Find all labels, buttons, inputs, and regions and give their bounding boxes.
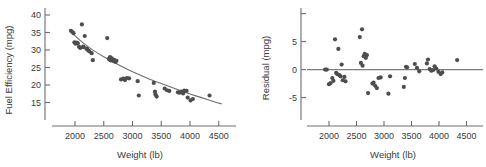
data-point: [426, 57, 430, 61]
data-point: [137, 93, 141, 97]
data-point: [167, 89, 171, 93]
y-tick-marks-right: [301, 14, 306, 98]
x-tick-label: 4500: [456, 131, 476, 141]
x-tick-marks-right: [329, 121, 467, 126]
data-points-left: [69, 22, 212, 102]
data-point: [360, 64, 364, 68]
chart-panel-residual: -505 Residual (mpg) 20002500300035004000…: [243, 0, 486, 167]
x-tick-marks-left: [75, 121, 219, 126]
x-tick-labels-left: 200025003000350040004500: [65, 131, 229, 141]
y-axis-group-left: 152025303540 Fuel Efficiency (mpg): [3, 8, 50, 120]
data-point: [83, 34, 87, 38]
data-point: [155, 94, 159, 98]
fit-curve-left: [69, 30, 221, 104]
data-point: [455, 58, 459, 62]
data-point: [366, 91, 370, 95]
data-point: [386, 92, 390, 96]
x-tick-label: 2500: [346, 131, 366, 141]
data-point: [105, 36, 109, 40]
y-tick-label: 5: [292, 37, 297, 47]
data-point: [336, 47, 340, 51]
y-tick-marks-left: [45, 15, 50, 103]
data-point: [114, 59, 118, 63]
data-point: [207, 93, 211, 97]
y-tick-label: 20: [31, 80, 41, 90]
y-tick-label: 40: [31, 10, 41, 20]
x-tick-label: 3500: [401, 131, 421, 141]
scatter-plot-fuel-efficiency: 152025303540 Fuel Efficiency (mpg) 20002…: [0, 0, 243, 167]
x-axis-title-left: Weight (lb): [117, 149, 163, 160]
data-point: [184, 89, 188, 93]
x-tick-label: 4500: [209, 131, 229, 141]
data-point: [403, 76, 407, 80]
data-point: [91, 58, 95, 62]
y-tick-label: 15: [31, 98, 41, 108]
chart-panel-fuel-efficiency: 152025303540 Fuel Efficiency (mpg) 20002…: [0, 0, 243, 167]
y-axis-title-left: Fuel Efficiency (mpg): [3, 25, 14, 114]
data-point: [80, 22, 84, 26]
data-point: [375, 86, 379, 90]
data-point: [405, 65, 409, 69]
data-point: [191, 97, 195, 101]
data-point: [90, 51, 94, 55]
x-axis-title-right: Weight (lb): [370, 149, 416, 160]
x-tick-labels-right: 200025003000350040004500: [319, 131, 477, 141]
data-points-right: [323, 27, 459, 96]
y-tick-label: 35: [31, 28, 41, 38]
y-tick-label: 30: [31, 45, 41, 55]
data-point: [343, 79, 347, 83]
data-point: [325, 68, 329, 72]
data-point: [388, 74, 392, 78]
data-point: [379, 75, 383, 79]
scatter-plot-residual: -505 Residual (mpg) 20002500300035004000…: [243, 0, 486, 167]
y-tick-labels-right: -505: [289, 37, 297, 103]
data-point: [331, 79, 335, 83]
data-point: [425, 61, 429, 65]
x-tick-label: 2000: [319, 131, 339, 141]
data-point: [333, 37, 337, 41]
figure-container: 152025303540 Fuel Efficiency (mpg) 20002…: [0, 0, 486, 167]
y-tick-label: 0: [292, 65, 297, 75]
data-point: [358, 35, 362, 39]
data-point: [417, 69, 421, 73]
data-point: [152, 81, 156, 85]
y-tick-label: 25: [31, 63, 41, 73]
data-point: [360, 27, 364, 31]
x-tick-label: 3000: [122, 131, 142, 141]
data-point: [342, 75, 346, 79]
x-tick-label: 3000: [374, 131, 394, 141]
data-point: [340, 62, 344, 66]
x-axis-group-left: 200025003000350040004500 Weight (lb): [52, 121, 236, 160]
y-tick-label: -5: [289, 93, 297, 103]
y-axis-group-right: -505 Residual (mpg): [260, 8, 306, 120]
data-point: [338, 74, 342, 78]
x-tick-label: 4000: [429, 131, 449, 141]
data-point: [413, 62, 417, 66]
x-tick-label: 2500: [94, 131, 114, 141]
data-point: [71, 31, 75, 35]
y-axis-title-right: Residual (mpg): [260, 36, 271, 100]
x-tick-label: 2000: [65, 131, 85, 141]
x-tick-label: 4000: [180, 131, 200, 141]
y-tick-labels-left: 152025303540: [31, 10, 41, 108]
data-point: [365, 53, 369, 57]
data-point: [440, 70, 444, 74]
data-point: [402, 85, 406, 89]
data-point: [127, 76, 131, 80]
x-axis-group-right: 200025003000350040004500 Weight (lb): [307, 121, 483, 160]
x-tick-label: 3500: [151, 131, 171, 141]
data-point: [136, 79, 140, 83]
